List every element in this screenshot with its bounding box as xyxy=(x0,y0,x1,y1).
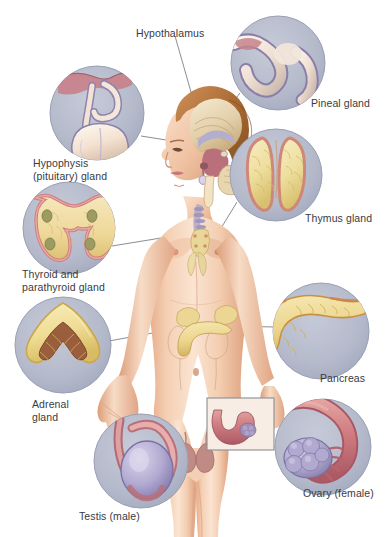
adrenal-inset xyxy=(15,297,111,393)
uterus-ovary-box xyxy=(207,398,274,450)
brainstem xyxy=(204,176,214,208)
testis-highlight xyxy=(129,448,149,472)
thymus-inset xyxy=(230,129,322,221)
pineal-gland-structure xyxy=(221,151,228,157)
navel xyxy=(193,368,199,376)
pineal-inset xyxy=(231,16,325,110)
testis-inset xyxy=(94,414,188,508)
hypophysis-inset xyxy=(50,66,144,166)
ovary-inset xyxy=(275,399,371,495)
chin-line xyxy=(174,185,184,187)
anatomy-illustration xyxy=(0,0,392,537)
thyroid-inset xyxy=(23,182,120,274)
endocrine-system-figure: Hypothalamus Hypophysis (pituitary) glan… xyxy=(0,0,392,537)
hypothalamus-structure xyxy=(200,163,208,170)
pineal-joint xyxy=(274,43,302,65)
